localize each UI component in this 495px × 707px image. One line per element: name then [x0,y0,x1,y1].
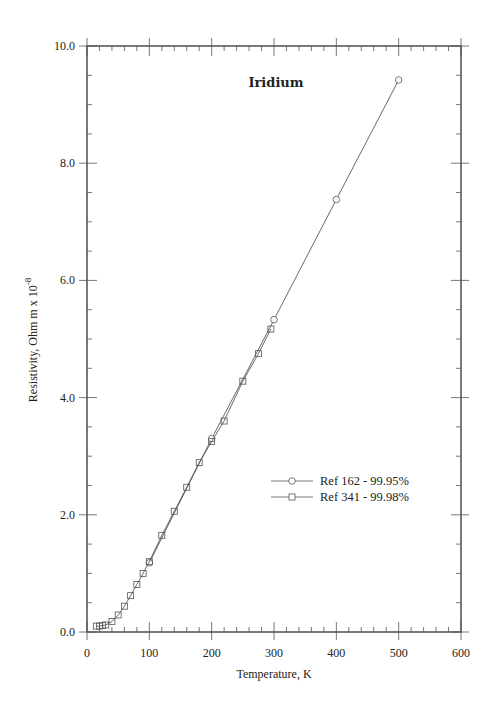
y-tick-labels: 0.02.04.06.08.010.0 [54,39,75,639]
legend-entry-ref162: Ref 162 - 99.95% [271,474,409,488]
y-tick-label: 4.0 [60,391,75,405]
x-tick-label: 0 [84,646,90,660]
circle-marker-icon [395,77,402,84]
y-axis-title-exponent: -8 [23,277,33,285]
legend-label-ref162: Ref 162 - 99.95% [320,474,409,488]
y-axis-title: Resistivity, Ohm m x 10-8 [23,277,40,402]
legend-entry-ref341: Ref 341 - 99.98% [271,490,409,504]
circle-marker-icon [271,316,278,323]
y-tick-label: 8.0 [60,156,75,170]
x-tick-label: 400 [327,646,345,660]
legend-label-ref341: Ref 341 - 99.98% [320,490,409,504]
x-tick-label: 600 [452,646,470,660]
chart-title: Iridium [248,75,303,90]
x-tick-labels: 0100200300400500600 [84,646,470,660]
x-axis-title: Temperature, K [236,667,311,681]
square-marker-icon [289,494,295,500]
legend: Ref 162 - 99.95% Ref 341 - 99.98% [271,474,409,504]
chart: 0100200300400500600 0.02.04.06.08.010.0 … [0,0,495,707]
y-axis-title-main: Resistivity, Ohm m x 10 [26,285,40,402]
x-tick-label: 200 [203,646,221,660]
data-series [93,77,402,629]
axis-ticks [79,38,469,640]
circle-marker-icon [333,196,340,203]
x-tick-label: 500 [390,646,408,660]
y-tick-label: 10.0 [54,39,75,53]
y-tick-label: 0.0 [60,625,75,639]
y-tick-label: 2.0 [60,508,75,522]
x-tick-label: 100 [140,646,158,660]
x-tick-label: 300 [265,646,283,660]
y-axis-title-group: Resistivity, Ohm m x 10-8 [23,277,40,402]
y-tick-label: 6.0 [60,273,75,287]
circle-marker-icon [289,478,296,485]
plot-frame [87,46,461,632]
